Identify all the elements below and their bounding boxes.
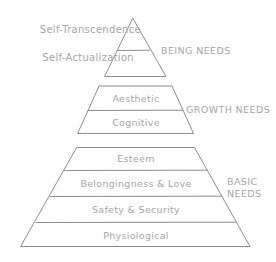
tier-label-physiological: Physiological xyxy=(103,230,168,241)
group-label-basic-needs-line2: NEEDS xyxy=(227,188,261,200)
tier-label-aesthetic: Aesthetic xyxy=(112,93,159,104)
tier-label-safety-security: Safety & Security xyxy=(92,204,180,215)
group-label-growth-needs: GROWTH NEEDS xyxy=(186,104,270,115)
group-label-being-needs: BEING NEEDS xyxy=(161,45,231,56)
pyramid-shapes xyxy=(0,0,276,262)
tier-label-cognitive: Cognitive xyxy=(112,117,160,128)
tier-label-esteem: Esteem xyxy=(117,153,154,164)
tier-label-self-actualization: Self-Actualization xyxy=(42,52,134,63)
group-label-basic-needs-line1: BASIC xyxy=(227,176,261,188)
group-label-basic-needs: BASIC NEEDS xyxy=(227,176,261,200)
maslow-pyramid-diagram: Self-Transcendence Self-Actualization Ae… xyxy=(0,0,276,262)
tier-label-self-transcendence: Self-Transcendence xyxy=(40,24,141,35)
tier-label-belongingness-love: Belongingness & Love xyxy=(80,178,191,189)
